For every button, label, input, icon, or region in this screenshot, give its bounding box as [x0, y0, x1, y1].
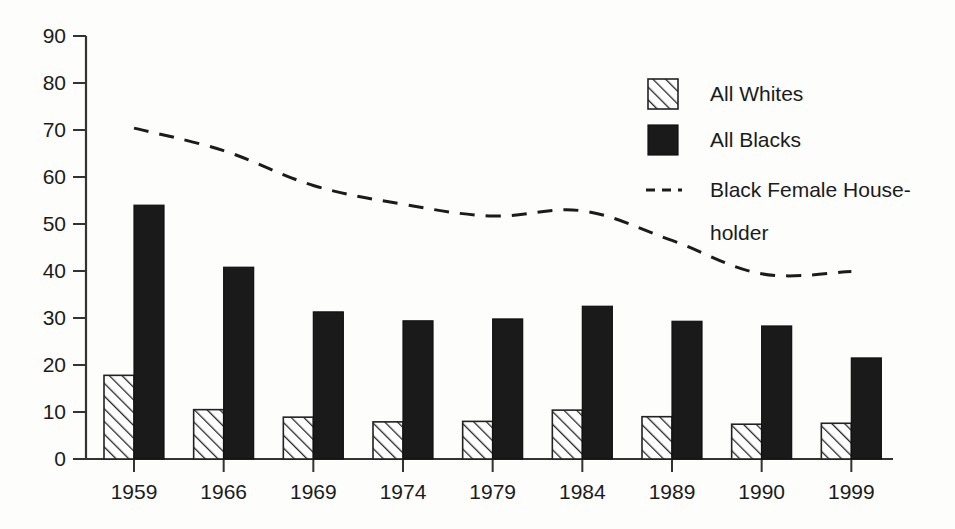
y-tick-label: 60 — [43, 165, 66, 188]
x-tick-label-1959: 1959 — [111, 480, 158, 503]
x-tick-label-1984: 1984 — [559, 480, 606, 503]
bar-all-whites-1974 — [373, 422, 403, 459]
x-tick-label-1999: 1999 — [828, 480, 875, 503]
bar-all-whites-1984 — [552, 410, 582, 459]
y-tick-label: 90 — [43, 24, 66, 47]
bar-all-blacks-1966 — [224, 267, 254, 459]
y-tick-label: 70 — [43, 118, 66, 141]
y-tick-label: 0 — [54, 447, 66, 470]
legend-label-all-whites: All Whites — [710, 82, 803, 105]
y-tick-label: 30 — [43, 306, 66, 329]
y-tick-label: 20 — [43, 353, 66, 376]
bar-all-whites-1990 — [732, 424, 762, 459]
x-tick-label-1989: 1989 — [649, 480, 696, 503]
bar-all-whites-1999 — [821, 423, 851, 459]
legend-swatch-all-whites — [648, 79, 678, 109]
y-tick-label: 10 — [43, 400, 66, 423]
bar-all-whites-1969 — [283, 417, 313, 459]
bar-all-blacks-1984 — [582, 306, 612, 459]
bar-all-blacks-1969 — [313, 312, 343, 459]
y-tick-label: 80 — [43, 71, 66, 94]
x-tick-label-1990: 1990 — [738, 480, 785, 503]
bar-all-blacks-1989 — [672, 321, 702, 459]
x-tick-label-1979: 1979 — [469, 480, 516, 503]
bar-chart-svg: 0102030405060708090 19591966196919741979… — [0, 0, 955, 529]
x-tick-labels: 195919661969197419791984198919901999 — [111, 480, 875, 503]
bar-all-whites-1966 — [194, 410, 224, 459]
legend-swatch-all-blacks — [648, 125, 678, 155]
y-tick-label: 50 — [43, 212, 66, 235]
legend-label-all-blacks: All Blacks — [710, 128, 801, 151]
bar-all-blacks-1999 — [851, 358, 881, 459]
x-tick-label-1969: 1969 — [290, 480, 337, 503]
legend-label-black-female-householder-cont: holder — [710, 221, 768, 244]
bar-all-whites-1979 — [463, 421, 493, 459]
chart-container: 0102030405060708090 19591966196919741979… — [0, 0, 955, 529]
legend-label-black-female-householder: Black Female House- — [710, 178, 911, 201]
y-tick-label: 40 — [43, 259, 66, 282]
bar-all-blacks-1979 — [493, 319, 523, 459]
bar-all-blacks-1990 — [762, 326, 792, 459]
bar-all-blacks-1959 — [134, 205, 164, 459]
x-tick-label-1966: 1966 — [200, 480, 247, 503]
bar-all-whites-1959 — [104, 375, 134, 459]
bar-all-blacks-1974 — [403, 321, 433, 459]
bar-all-whites-1989 — [642, 417, 672, 459]
x-tick-label-1974: 1974 — [380, 480, 427, 503]
